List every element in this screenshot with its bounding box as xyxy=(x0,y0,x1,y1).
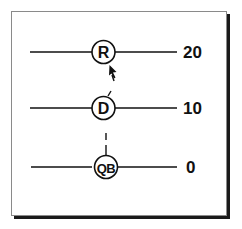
yard-label-20: 20 xyxy=(183,43,202,62)
player-d-label: D xyxy=(98,100,110,117)
yard-label-0: 0 xyxy=(186,158,195,177)
yard-label-10: 10 xyxy=(183,99,202,118)
player-qb: QB xyxy=(95,156,118,179)
player-d: D xyxy=(92,97,115,120)
player-r: R xyxy=(92,41,115,64)
route-diagram: 20 R 10 D 0 QB xyxy=(0,0,242,229)
yard-line-20: 20 xyxy=(30,43,202,62)
player-qb-label: QB xyxy=(97,161,116,176)
player-r-label: R xyxy=(98,44,110,61)
path-d-to-r xyxy=(108,75,114,96)
yard-line-10: 10 xyxy=(30,99,202,118)
